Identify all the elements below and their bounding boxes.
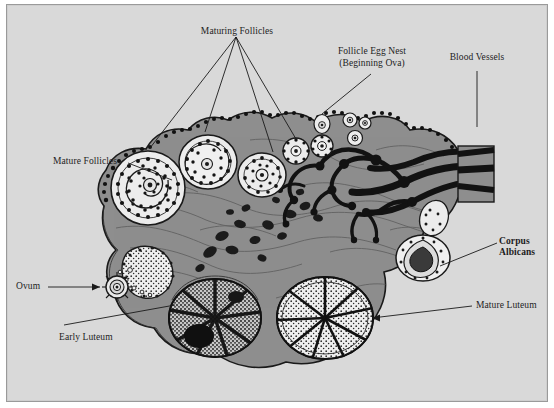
label-early-luteum: Early Luteum [59,332,113,343]
leader-mature-luteum [372,306,472,318]
label-corpus-albicans-line2: Albicans [499,247,535,258]
label-follicle-egg-nest-line1: Follicle Egg Nest [322,46,422,57]
label-blood-vessels: Blood Vessels [437,52,517,63]
label-mature-luteum: Mature Luteum [476,300,537,311]
maturing-follicle-1 [179,135,237,189]
ovum-arrowhead [92,284,100,291]
mature-luteum [277,276,373,360]
mature-follicle-large [111,151,185,225]
label-ovum: Ovum [16,281,40,292]
ovary-diagram-figure: Maturing Follicles Follicle Egg Nest (Be… [0,0,554,408]
egg-nest-1 [314,115,330,134]
egg-nest-3 [359,117,371,129]
maturing-follicle-4 [311,135,333,157]
leader-egg-nest [322,74,371,114]
released-ovum [102,272,132,302]
egg-nest-2 [343,113,357,127]
maturing-follicle-3 [282,138,309,164]
label-maturing-follicles: Maturing Follicles [191,26,283,37]
label-follicle-egg-nest-line2: (Beginning Ova) [322,58,422,69]
maturing-follicle-2 [238,153,286,197]
egg-nest-4 [348,131,363,146]
blood-vessel-trunk [458,146,494,202]
label-mature-follicles: Mature Follicles [53,156,117,167]
label-corpus-albicans-line1: Corpus [499,236,530,247]
